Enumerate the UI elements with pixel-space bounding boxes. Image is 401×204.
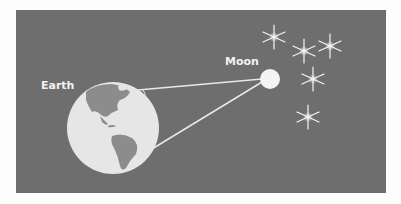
star-icon xyxy=(319,34,341,58)
earth-label: Earth xyxy=(41,79,74,92)
star-icon xyxy=(293,39,315,63)
star-icon xyxy=(263,25,285,49)
moon xyxy=(260,69,280,89)
earth-globe xyxy=(67,82,159,174)
star-icon xyxy=(302,67,324,91)
earth-moon-diagram xyxy=(0,0,401,204)
moon-label: Moon xyxy=(225,55,259,68)
star-icon xyxy=(297,105,319,129)
